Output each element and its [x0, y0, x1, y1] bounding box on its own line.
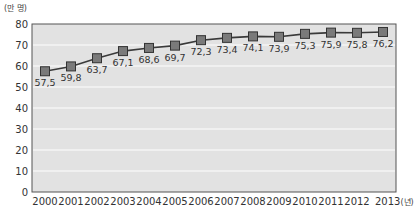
y-tick-label: 70: [15, 40, 28, 51]
data-marker: [379, 27, 388, 36]
data-label: 75,3: [294, 40, 315, 51]
x-axis-ticks: 2000200120022003200420052006200720082009…: [32, 196, 413, 207]
data-label: 72,3: [190, 46, 211, 57]
data-label: 63,7: [86, 64, 107, 75]
y-tick-label: 60: [15, 61, 28, 72]
x-tick-label: 2008: [240, 196, 265, 207]
x-tick-label: 2012: [344, 196, 369, 207]
data-marker: [223, 33, 232, 42]
x-tick-label: 2005: [162, 196, 187, 207]
data-label: 75,9: [320, 39, 341, 50]
y-tick-label: 20: [15, 145, 28, 156]
x-tick-label: 2007: [214, 196, 239, 207]
data-label: 75,8: [346, 39, 367, 50]
y-tick-label: 50: [15, 82, 28, 93]
x-tick-label: 2010: [292, 196, 317, 207]
data-marker: [119, 47, 128, 56]
x-tick-label: 2013(년): [375, 196, 414, 207]
data-marker: [353, 28, 362, 37]
data-marker: [327, 28, 336, 37]
x-tick-label: 2003: [110, 196, 135, 207]
y-tick-label: 40: [15, 103, 28, 114]
data-label: 76,2: [372, 38, 393, 49]
data-label: 73,4: [216, 44, 237, 55]
x-tick-label: 2002: [84, 196, 109, 207]
y-axis-ticks: 01020304050607080: [15, 19, 28, 198]
data-marker: [171, 41, 180, 50]
y-tick-label: 0: [22, 187, 28, 198]
data-label: 67,1: [112, 57, 133, 68]
x-tick-label: 2000: [32, 196, 57, 207]
data-marker: [197, 36, 206, 45]
data-marker: [93, 54, 102, 63]
y-tick-label: 80: [15, 19, 28, 30]
data-label: 57,5: [34, 77, 55, 88]
x-tick-label: 2001: [58, 196, 83, 207]
y-axis-unit-label: (만 명): [4, 3, 27, 13]
data-marker: [67, 62, 76, 71]
x-tick-label: 2004: [136, 196, 161, 207]
x-tick-label: 2009: [266, 196, 291, 207]
data-marker: [275, 32, 284, 41]
line-chart: (만 명) 01020304050607080 2000200120022003…: [0, 0, 420, 215]
data-marker: [249, 32, 258, 41]
data-label: 69,7: [164, 52, 185, 63]
data-marker: [41, 67, 50, 76]
y-tick-label: 10: [15, 166, 28, 177]
y-tick-label: 30: [15, 124, 28, 135]
x-tick-label: 2011: [318, 196, 343, 207]
data-marker: [301, 29, 310, 38]
data-label: 74,1: [242, 42, 263, 53]
data-label: 73,9: [268, 43, 289, 54]
data-marker: [145, 43, 154, 52]
x-tick-label: 2006: [188, 196, 213, 207]
data-label: 68,6: [138, 54, 159, 65]
data-label: 59,8: [60, 72, 81, 83]
